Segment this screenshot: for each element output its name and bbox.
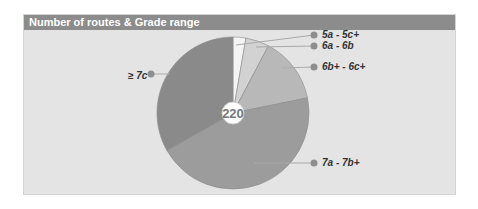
pie-chart: 220: [0, 0, 478, 209]
label-7a-7b: 7a - 7b+: [322, 157, 360, 169]
marker-dot-icon: [311, 64, 318, 71]
label-7c-plus: ≥ 7c: [128, 70, 147, 82]
label-6b-6c: 6b+ - 6c+: [322, 61, 365, 73]
marker-dot-icon: [148, 71, 155, 78]
marker-dot-icon: [311, 160, 318, 167]
marker-dot-icon: [311, 32, 318, 39]
marker-dot-icon: [311, 43, 318, 50]
center-total: 220: [222, 106, 244, 121]
label-6a-6b: 6a - 6b: [322, 40, 354, 52]
